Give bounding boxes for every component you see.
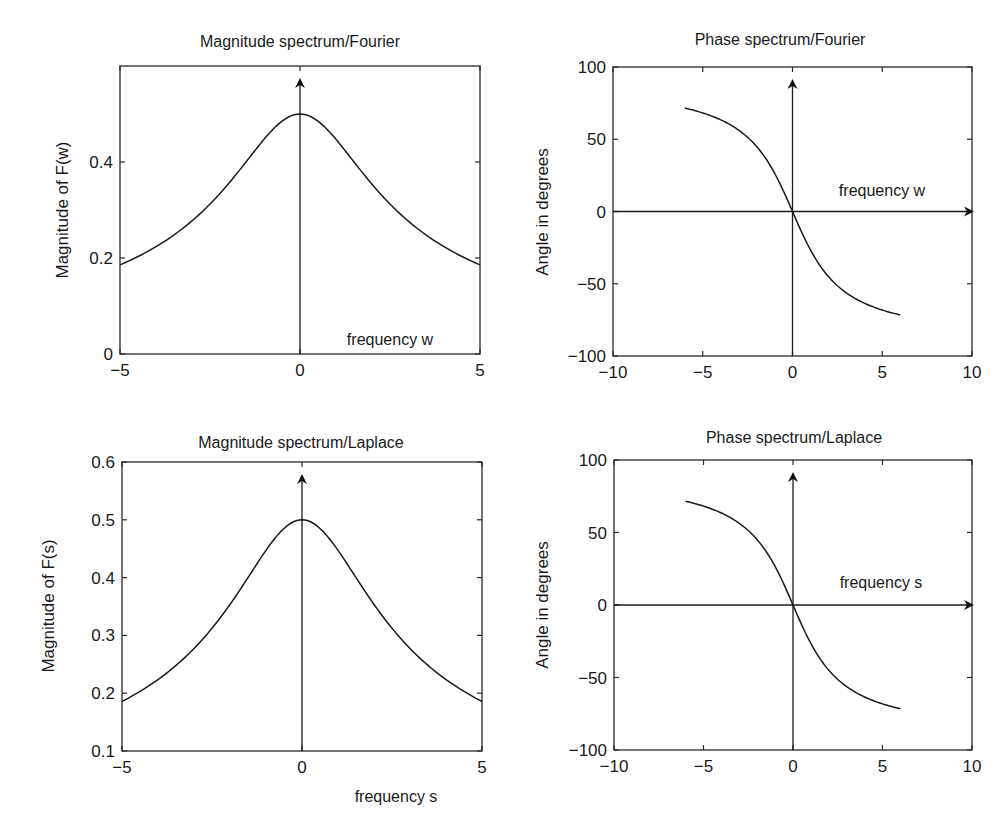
x-tick-label: 5 bbox=[878, 363, 887, 382]
panel-title: Phase spectrum/Laplace bbox=[706, 429, 882, 446]
y-tick-label: 0.2 bbox=[89, 249, 113, 268]
x-ticks: −10−50510 bbox=[600, 460, 982, 776]
x-tick-label: 0 bbox=[788, 363, 797, 382]
y-tick-label: 0 bbox=[598, 596, 607, 615]
x-tick-label: 0 bbox=[297, 758, 306, 777]
panel-magnitude-fourier: Magnitude spectrum/Fourier Magnitude of … bbox=[53, 33, 485, 380]
y-tick-label: −50 bbox=[577, 275, 606, 294]
panel-phase-fourier: Phase spectrum/Fourier Angle in degrees … bbox=[533, 31, 981, 382]
frequency-annotation: frequency w bbox=[347, 331, 434, 348]
y-axis-label: Magnitude of F(w) bbox=[53, 142, 72, 279]
x-tick-label: 10 bbox=[963, 757, 982, 776]
x-tick-label: −5 bbox=[112, 758, 131, 777]
x-ticks: −10−50510 bbox=[599, 67, 982, 382]
x-tick-label: −10 bbox=[600, 757, 629, 776]
panel-title: Magnitude spectrum/Laplace bbox=[198, 434, 404, 451]
y-ticks: 0.10.20.30.40.50.6 bbox=[91, 453, 482, 761]
y-axis-label: Magnitude of F(s) bbox=[39, 539, 58, 672]
x-tick-label: −10 bbox=[599, 363, 628, 382]
panel-magnitude-laplace: Magnitude spectrum/Laplace Magnitude of … bbox=[39, 434, 487, 805]
y-axis-label: Angle in degrees bbox=[533, 541, 552, 669]
x-tick-label: −5 bbox=[694, 757, 713, 776]
y-axis-label: Angle in degrees bbox=[533, 148, 552, 276]
y-tick-label: −50 bbox=[578, 669, 607, 688]
x-axis-label: frequency s bbox=[355, 788, 438, 805]
y-tick-label: 0.2 bbox=[91, 684, 115, 703]
y-tick-label: 100 bbox=[578, 58, 606, 77]
panel-title: Phase spectrum/Fourier bbox=[695, 31, 866, 48]
axis-arrows bbox=[613, 81, 972, 356]
frequency-annotation: frequency w bbox=[839, 182, 926, 199]
figure-canvas: Magnitude spectrum/Fourier Magnitude of … bbox=[0, 0, 1006, 828]
y-tick-label: 0.3 bbox=[91, 626, 115, 645]
y-tick-label: 0.6 bbox=[91, 453, 115, 472]
panel-phase-laplace: Phase spectrum/Laplace Angle in degrees … bbox=[533, 429, 981, 776]
y-tick-label: 50 bbox=[588, 524, 607, 543]
x-tick-label: −5 bbox=[110, 361, 129, 380]
y-tick-label: 50 bbox=[587, 130, 606, 149]
x-tick-label: −5 bbox=[693, 363, 712, 382]
x-tick-label: 5 bbox=[475, 361, 484, 380]
y-tick-label: 0.5 bbox=[91, 511, 115, 530]
y-tick-label: 0.4 bbox=[89, 153, 113, 172]
x-tick-label: 5 bbox=[878, 757, 887, 776]
x-tick-label: 0 bbox=[788, 757, 797, 776]
x-tick-label: 5 bbox=[477, 758, 486, 777]
axis-arrows bbox=[614, 474, 972, 750]
frequency-annotation: frequency s bbox=[840, 574, 923, 591]
y-tick-label: 0 bbox=[597, 203, 606, 222]
x-tick-label: 10 bbox=[963, 363, 982, 382]
panel-title: Magnitude spectrum/Fourier bbox=[200, 33, 401, 50]
y-tick-label: 100 bbox=[579, 451, 607, 470]
x-ticks: −505 bbox=[112, 462, 486, 777]
y-tick-label: 0.4 bbox=[91, 569, 115, 588]
x-tick-label: 0 bbox=[295, 361, 304, 380]
